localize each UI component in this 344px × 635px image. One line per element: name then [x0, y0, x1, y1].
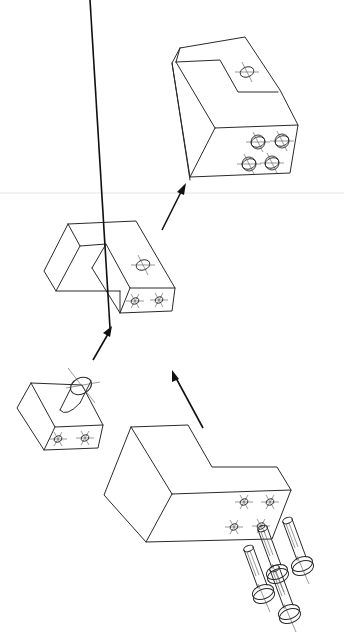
- arrow-pin-to-intermediate: [90, 0, 112, 360]
- bolts: [243, 516, 316, 632]
- final-assembly: [172, 37, 298, 180]
- cylinder-pin: [60, 368, 100, 413]
- arrow-to-final: [162, 183, 186, 230]
- arrow-l-to-intermediate: [172, 370, 203, 428]
- pin-block: [17, 368, 103, 450]
- assembly-diagram: [0, 0, 344, 635]
- intermediate-block: [44, 221, 175, 313]
- bolt-1: [243, 544, 277, 612]
- bolt-heads: [237, 131, 294, 174]
- l-block: [104, 425, 291, 542]
- bolt-3: [282, 516, 316, 584]
